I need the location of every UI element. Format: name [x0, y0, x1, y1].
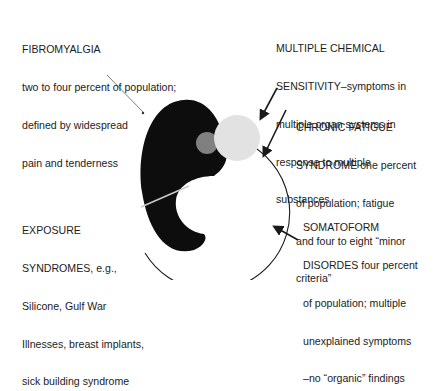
label-line: SYNDROME one percent: [296, 159, 416, 172]
label-line: FIBROMYALGIA: [22, 43, 176, 56]
label-line: MULTIPLE CHEMICAL: [276, 42, 406, 55]
label-line: two to four percent of population;: [22, 81, 176, 94]
label-line: SYNDROMES, e.g.,: [22, 262, 144, 275]
label-line: unexplained symptoms: [303, 335, 418, 348]
label-line: pain and tenderness: [22, 157, 176, 170]
label-line: defined by widespread: [22, 119, 176, 132]
chemical-sensitivity-pointer: [261, 88, 277, 118]
label-line: CHRONIC FATIGUE: [296, 121, 416, 134]
label-line: –no “organic” findings: [303, 372, 418, 385]
label-line: EXPOSURE: [22, 224, 144, 237]
label-somatoform-disorders: SOMATOFORM DISORDES four percent of popu…: [303, 196, 418, 391]
label-fibromyalgia: FIBROMYALGIA two to four percent of popu…: [22, 18, 176, 182]
somatoform-pointer: [275, 227, 298, 240]
label-exposure-syndromes: EXPOSURE SYNDROMES, e.g., Silicone, Gulf…: [22, 199, 144, 391]
label-line: SOMATOFORM: [303, 221, 418, 234]
label-line: sick building syndrome: [22, 375, 144, 388]
label-line: SENSITIVITY–symptoms in: [276, 80, 406, 93]
label-line: DISORDES four percent: [303, 259, 418, 272]
label-line: of population; multiple: [303, 297, 418, 310]
chronic-fatigue-circle: [214, 115, 260, 161]
label-line: Silicone, Gulf War: [22, 300, 144, 313]
label-line: Illnesses, breast implants,: [22, 338, 144, 351]
